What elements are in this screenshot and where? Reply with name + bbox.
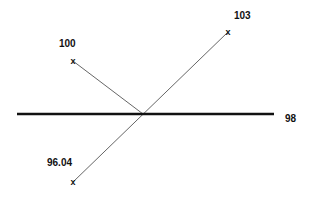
label-100: 100 bbox=[59, 38, 76, 49]
background bbox=[0, 0, 309, 198]
label-103: 103 bbox=[234, 10, 251, 21]
label-96-04: 96.04 bbox=[47, 157, 72, 168]
diagram-canvas: x x x 100 103 96.04 98 bbox=[0, 0, 309, 198]
x-marker-96-04: x bbox=[70, 177, 75, 187]
x-marker-100: x bbox=[70, 56, 75, 66]
x-marker-103: x bbox=[225, 27, 230, 37]
label-98: 98 bbox=[285, 113, 297, 124]
